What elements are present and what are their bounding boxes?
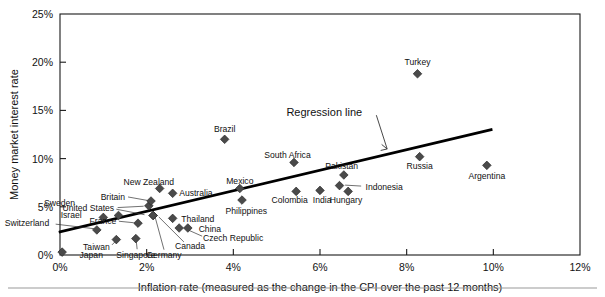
data-point-marker	[340, 171, 349, 180]
data-point-label: Turkey	[405, 57, 432, 67]
y-tick-label: 0%	[38, 249, 53, 261]
x-tick-label: 10%	[483, 261, 504, 273]
data-point-marker	[335, 181, 344, 190]
data-point-label: United States	[63, 203, 115, 213]
chart-canvas: 0%2%4%6%8%10%12%0%5%10%15%20%25%Inflatio…	[0, 0, 605, 297]
data-point-marker	[134, 219, 143, 228]
data-point-label: Pakistan	[325, 161, 358, 171]
data-point-label: Czech Republic	[203, 233, 264, 243]
annotation-leader	[376, 115, 387, 149]
x-tick-label: 6%	[312, 261, 327, 273]
data-point-marker	[168, 189, 177, 198]
data-point-marker	[413, 69, 422, 78]
data-point-label: South Africa	[264, 150, 311, 160]
data-point-marker	[316, 186, 325, 195]
data-point-label: Australia	[179, 188, 213, 198]
x-axis-title: Inflation rate (measured as the change i…	[138, 281, 502, 293]
scatter-chart: 0%2%4%6%8%10%12%0%5%10%15%20%25%Inflatio…	[0, 0, 605, 297]
data-point-label: New Zealand	[124, 177, 175, 187]
data-point-marker	[483, 161, 492, 170]
data-point-label: Britain	[101, 192, 126, 202]
y-axis-title: Money market interest rate	[8, 69, 20, 200]
y-tick-label: 10%	[32, 153, 53, 165]
y-tick-label: 25%	[32, 8, 53, 20]
x-tick-label: 2%	[139, 261, 154, 273]
data-point-marker	[220, 135, 229, 144]
data-point-label: Colombia	[272, 195, 309, 205]
x-tick-label: 12%	[569, 261, 590, 273]
data-point-marker	[168, 214, 177, 223]
data-point-label: Switzerland	[5, 218, 50, 228]
data-point-marker	[93, 226, 102, 235]
data-point-label: Brazil	[214, 124, 236, 134]
data-point-marker	[149, 211, 158, 220]
data-point-label: Canada	[175, 241, 205, 251]
data-point-marker	[112, 235, 121, 244]
data-point-label: Russia	[407, 161, 433, 171]
data-point-label: Thailand	[181, 214, 214, 224]
data-point-label: Taiwan	[83, 242, 110, 252]
data-point-label: Indonesia	[366, 182, 403, 192]
data-point-label: Philippines	[226, 206, 268, 216]
data-point-marker	[175, 224, 184, 233]
data-point-marker	[132, 234, 141, 243]
x-tick-label: 8%	[399, 261, 414, 273]
y-tick-label: 15%	[32, 104, 53, 116]
label-leader-line	[128, 197, 148, 200]
data-point-marker	[238, 196, 247, 205]
data-point-label: France	[90, 216, 117, 226]
label-leader-line	[345, 185, 361, 186]
data-point-label: Mexico	[226, 176, 253, 186]
label-leader-line	[155, 218, 164, 250]
data-point-label: Germany	[146, 250, 182, 260]
data-point-label: Argentina	[468, 171, 505, 181]
label-leader-line	[118, 206, 144, 207]
label-leader-line	[119, 221, 134, 222]
regression-line-label: Regression line	[286, 106, 362, 118]
x-tick-label: 4%	[226, 261, 241, 273]
y-tick-label: 20%	[32, 56, 53, 68]
data-point-marker	[415, 152, 424, 161]
x-tick-label: 0%	[52, 261, 67, 273]
data-point-label: Hungary	[330, 195, 363, 205]
